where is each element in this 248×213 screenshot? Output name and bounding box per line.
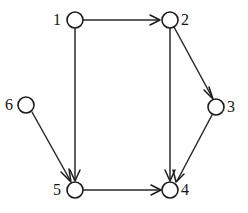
node-2-label: 2 [181, 12, 189, 28]
node-layer [18, 12, 224, 198]
node-6-label: 6 [5, 97, 13, 113]
edge-3-to-4 [177, 115, 212, 181]
node-1[interactable] [67, 12, 83, 28]
arrowhead-layer [61, 15, 213, 195]
node-3[interactable] [208, 99, 224, 115]
node-5[interactable] [67, 182, 83, 198]
edge-6-to-5 [32, 112, 70, 180]
arrowhead-6-to-5 [61, 169, 71, 182]
node-4[interactable] [162, 182, 178, 198]
node-1-label: 1 [53, 12, 61, 28]
node-2[interactable] [162, 12, 178, 28]
edge-layer [32, 20, 212, 190]
node-4-label: 4 [181, 182, 189, 198]
directed-graph-figure: 1 2 3 4 5 6 [0, 0, 248, 213]
graph-canvas [0, 0, 248, 213]
node-6[interactable] [18, 97, 34, 113]
edge-2-to-3 [174, 27, 212, 97]
node-3-label: 3 [227, 99, 235, 115]
cropped-caption [0, 207, 248, 213]
node-5-label: 5 [53, 182, 61, 198]
arrowhead-2-to-3 [204, 87, 213, 99]
